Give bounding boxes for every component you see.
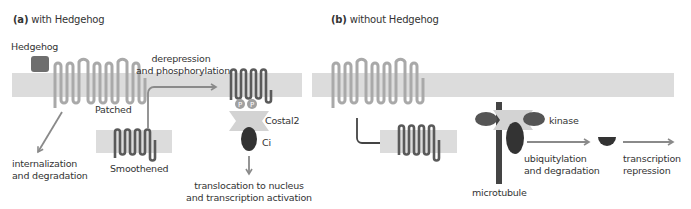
- hedgehog-ligand-icon: [31, 56, 49, 72]
- phosphate-label: P: [238, 101, 242, 109]
- ubiquitylation-label: ubiquitylation and degradation: [524, 153, 600, 176]
- panel-b-title-text: without Hedgehog: [350, 14, 439, 25]
- phosphate-label: P: [250, 101, 254, 109]
- hedgehog-label: Hedgehog: [11, 41, 58, 53]
- panel-b: [312, 59, 674, 184]
- translocation-label: translocation to nucleus and transcripti…: [184, 180, 314, 203]
- ci-protein-icon: [241, 127, 257, 151]
- patched-label: Patched: [95, 104, 132, 116]
- kinase-icon: [475, 112, 497, 126]
- patched-receptor-icon: [333, 59, 423, 108]
- panel-a-title-text: with Hedgehog: [31, 14, 104, 25]
- panel-a-letter: (a): [13, 14, 28, 25]
- panel-b-letter: (b): [331, 14, 347, 25]
- ci-repressor-icon: [598, 137, 616, 146]
- internalization-label: internalization and degradation: [12, 158, 88, 181]
- repression-label: transcription repression: [623, 153, 681, 176]
- microtubule-label: microtubule: [472, 187, 527, 199]
- ci-label: Ci: [262, 137, 271, 149]
- kinase-label: kinase: [549, 115, 579, 127]
- kinase-icon: [523, 112, 545, 126]
- costal2-label: Costal2: [265, 115, 299, 127]
- panel-b-title: (b) without Hedgehog: [331, 14, 439, 26]
- smoothened-label: Smoothened: [110, 163, 168, 175]
- ci-protein-icon: [506, 122, 524, 154]
- derepression-label: derepression and phosphorylation: [136, 53, 226, 76]
- smoothened-active-icon: [231, 70, 271, 103]
- internalization-arrow: [38, 112, 62, 152]
- panel-a-title: (a) with Hedgehog: [13, 14, 104, 26]
- smoothened-receptor-icon: [115, 130, 155, 161]
- smoothened-receptor-icon: [399, 126, 439, 161]
- patched-receptor-icon: [55, 59, 145, 108]
